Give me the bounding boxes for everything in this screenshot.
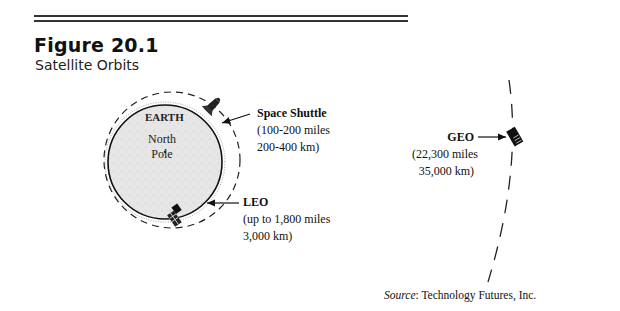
leo-range-miles: (up to 1,800 miles: [243, 211, 330, 228]
shuttle-name: Space Shuttle: [257, 105, 330, 122]
source-credit: Source: Technology Futures, Inc.: [384, 289, 536, 301]
shuttle-arrow: [222, 114, 250, 123]
source-label: Source: [384, 289, 416, 301]
geo-range-km: 35,000 km): [412, 163, 474, 180]
geo-label: GEO (22,300 miles 35,000 km): [412, 129, 474, 180]
earth-label: EARTH: [145, 111, 184, 123]
leo-name: LEO: [243, 194, 330, 211]
source-text: : Technology Futures, Inc.: [416, 289, 537, 301]
pole-line1: North: [148, 132, 176, 146]
geo-range-miles: (22,300 miles: [412, 146, 474, 163]
geo-name: GEO: [412, 129, 474, 146]
geo-satellite-icon: [506, 127, 523, 147]
geo-orbit-path: [488, 80, 513, 282]
leo-range-km: 3,000 km): [243, 228, 330, 245]
shuttle-range-miles: (100-200 miles: [257, 122, 330, 139]
pole-line2: Pole: [151, 147, 172, 161]
north-pole-label: North Pole: [148, 132, 176, 162]
shuttle-range-km: 200-400 km): [257, 139, 330, 156]
shuttle-label: Space Shuttle (100-200 miles 200-400 km): [257, 105, 330, 156]
leo-label: LEO (up to 1,800 miles 3,000 km): [243, 194, 330, 245]
